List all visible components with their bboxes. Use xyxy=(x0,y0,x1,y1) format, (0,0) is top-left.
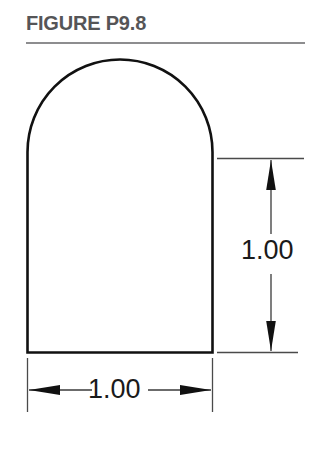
drawing-canvas xyxy=(0,0,325,451)
height-dimension-label: 1.00 xyxy=(241,237,294,264)
height-arrow-down-icon xyxy=(266,321,276,351)
height-arrow-up-icon xyxy=(266,160,276,190)
engineering-drawing xyxy=(0,0,325,451)
width-arrow-right-icon xyxy=(180,385,211,395)
figure-page: FIGURE P9.8 1.00 1.00 xyxy=(0,0,325,451)
width-arrow-left-icon xyxy=(29,385,60,395)
width-dimension-label: 1.00 xyxy=(88,376,141,403)
arch-shape-outline xyxy=(28,60,213,353)
